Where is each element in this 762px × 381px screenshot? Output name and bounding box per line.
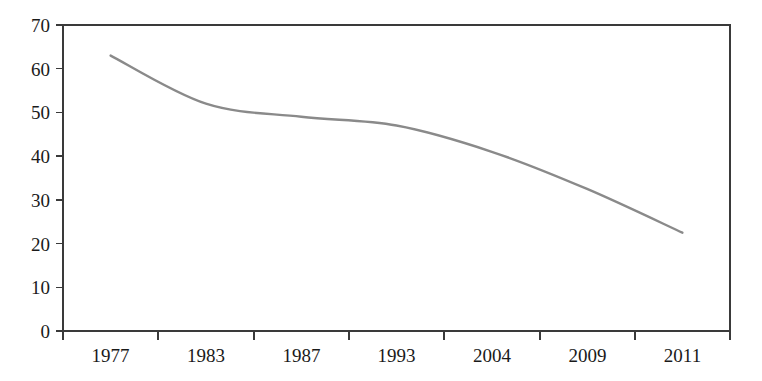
ytick-label-4: 40 <box>31 146 50 167</box>
xtick-label-1977: 1977 <box>92 345 130 366</box>
ytick-label-3: 30 <box>31 190 50 211</box>
xtick-label-2009: 2009 <box>569 345 607 366</box>
xtick-label-2011: 2011 <box>664 345 701 366</box>
line-chart: 0 10 20 30 40 50 60 70 1977 1983 1987 19… <box>0 0 762 381</box>
ytick-label-2: 20 <box>31 234 50 255</box>
ytick-label-1: 10 <box>31 277 50 298</box>
ytick-label-7: 70 <box>31 15 50 36</box>
ytick-label-0: 0 <box>41 321 51 342</box>
xtick-label-1993: 1993 <box>378 345 416 366</box>
xtick-label-1987: 1987 <box>283 345 321 366</box>
xtick-label-2004: 2004 <box>473 345 512 366</box>
ytick-label-5: 50 <box>31 102 50 123</box>
ytick-label-6: 60 <box>31 59 50 80</box>
xtick-label-1983: 1983 <box>187 345 225 366</box>
chart-figure: 0 10 20 30 40 50 60 70 1977 1983 1987 19… <box>0 0 762 381</box>
